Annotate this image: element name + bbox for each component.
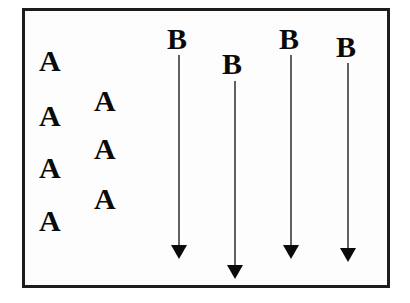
figure-canvas: AAAAAAABBBB: [0, 0, 410, 303]
label-a-left-2: A: [39, 101, 61, 131]
label-a-left-4: A: [39, 206, 61, 236]
label-b-4: B: [336, 32, 356, 62]
label-a-right-2: A: [94, 134, 116, 164]
label-a-left-3: A: [39, 153, 61, 183]
label-a-right-3: A: [94, 184, 116, 214]
label-b-2: B: [222, 49, 242, 79]
label-a-right-1: A: [94, 86, 116, 116]
label-b-1: B: [167, 24, 187, 54]
label-b-3: B: [279, 24, 299, 54]
label-a-left-1: A: [39, 46, 61, 76]
diagram-frame: [22, 8, 390, 288]
